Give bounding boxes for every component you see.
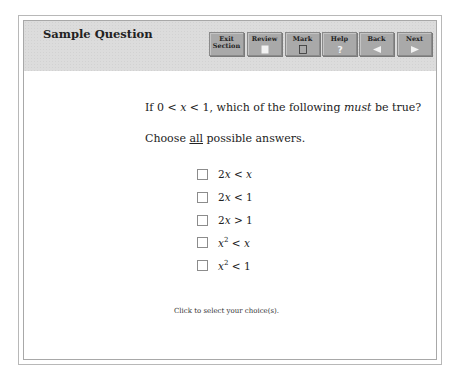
- choice-checkbox[interactable]: [197, 192, 208, 203]
- question-icon: ?: [336, 45, 344, 54]
- checkbox-icon: [299, 45, 307, 54]
- back-button[interactable]: Back: [359, 32, 394, 56]
- instruction-part: possible answers.: [203, 132, 305, 145]
- stem-emphasis: must: [344, 101, 372, 114]
- button-label: Help: [331, 35, 348, 43]
- next-button[interactable]: Next: [397, 32, 432, 56]
- instruction-text: Choose all possible answers.: [145, 132, 305, 145]
- answer-choice[interactable]: 2x > 1: [197, 213, 253, 227]
- exit-section-button[interactable]: Exit Section: [209, 32, 244, 56]
- question-window: Sample Question Exit Section Review Mark…: [23, 20, 437, 360]
- instruction-underlined: all: [189, 132, 203, 145]
- page-title: Sample Question: [43, 27, 153, 41]
- button-label: Review: [252, 35, 278, 43]
- choice-label: x2 < 1: [218, 259, 251, 272]
- choice-label: 2x < 1: [218, 191, 253, 203]
- button-label: Back: [367, 35, 385, 43]
- stem-text: be true?: [372, 101, 422, 114]
- choice-checkbox[interactable]: [197, 260, 208, 271]
- choice-checkbox[interactable]: [197, 169, 208, 180]
- answer-choice[interactable]: 2x < x: [197, 167, 252, 181]
- choice-label: 2x > 1: [218, 214, 253, 226]
- header-bar: Sample Question Exit Section Review Mark…: [24, 21, 436, 71]
- choice-label: 2x < x: [218, 168, 252, 180]
- right-arrow-icon: [410, 45, 420, 54]
- question-stem: If 0 < x < 1, which of the following mus…: [145, 101, 421, 114]
- stem-text: If 0 <: [145, 101, 180, 114]
- choice-checkbox[interactable]: [197, 237, 208, 248]
- choice-label: x2 < x: [218, 236, 250, 249]
- answer-choice[interactable]: x2 < x: [197, 235, 250, 249]
- answer-choice[interactable]: 2x < 1: [197, 190, 253, 204]
- button-label: Next: [406, 35, 423, 43]
- footer-hint: Click to select your choice(s).: [174, 307, 279, 315]
- stem-text: < 1, which of the following: [186, 101, 344, 114]
- left-arrow-icon: [372, 45, 382, 54]
- choice-checkbox[interactable]: [197, 215, 208, 226]
- page-icon: [261, 45, 269, 54]
- button-label: Section: [213, 42, 240, 50]
- svg-text:?: ?: [337, 45, 342, 54]
- instruction-part: Choose: [145, 132, 189, 145]
- mark-button[interactable]: Mark: [285, 32, 320, 56]
- review-button[interactable]: Review: [247, 32, 282, 56]
- button-label: Mark: [293, 35, 312, 43]
- answer-choice[interactable]: x2 < 1: [197, 258, 251, 272]
- help-button[interactable]: Help ?: [322, 32, 357, 56]
